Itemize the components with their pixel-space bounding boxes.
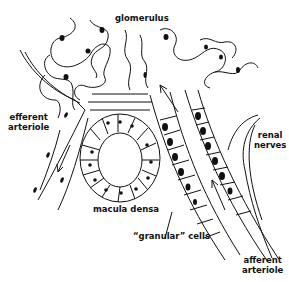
label-afferent-line1: afferent [242, 255, 283, 265]
afferent-flow-arrow-upper-icon [160, 85, 178, 112]
macula-densa [80, 94, 160, 202]
label-renal-line2: nerves [254, 140, 286, 150]
label-afferent-arteriole: afferent arteriole [242, 255, 283, 275]
label-efferent-line2: arteriole [8, 122, 49, 132]
label-granular-cells: “granular” cells [133, 231, 210, 241]
label-efferent-line1: efferent [8, 112, 49, 122]
glomerulus-capillaries [40, 18, 258, 118]
label-renal-nerves: renal nerves [254, 130, 286, 150]
label-renal-line1: renal [254, 130, 286, 140]
label-efferent-arteriole: efferent arteriole [8, 112, 49, 132]
label-afferent-line2: arteriole [242, 265, 283, 275]
juxtaglomerular-diagram: glomerulus efferent arteriole renal nerv… [0, 0, 289, 282]
capillary-nuclei [60, 27, 241, 80]
label-macula-densa: macula densa [93, 204, 159, 214]
label-glomerulus: glomerulus [115, 13, 169, 23]
efferent-flow-arrow-icon [57, 145, 70, 172]
